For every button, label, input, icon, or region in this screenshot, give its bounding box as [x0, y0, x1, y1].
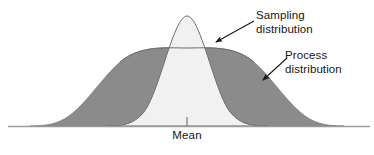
sampling-distribution-arrow	[216, 21, 254, 42]
process-distribution-arrow	[263, 58, 287, 80]
process-distribution-label: Process distribution	[285, 49, 342, 76]
mean-axis-label: Mean	[0, 129, 374, 143]
process-distribution-label-line2: distribution	[285, 63, 342, 77]
sampling-distribution-label-line2: distribution	[256, 23, 313, 37]
process-distribution-label-line1: Process	[285, 49, 342, 63]
sampling-distribution-label-line1: Sampling	[256, 9, 313, 23]
distribution-figure: Sampling distribution Process distributi…	[0, 0, 374, 155]
sampling-distribution-label: Sampling distribution	[256, 9, 313, 36]
